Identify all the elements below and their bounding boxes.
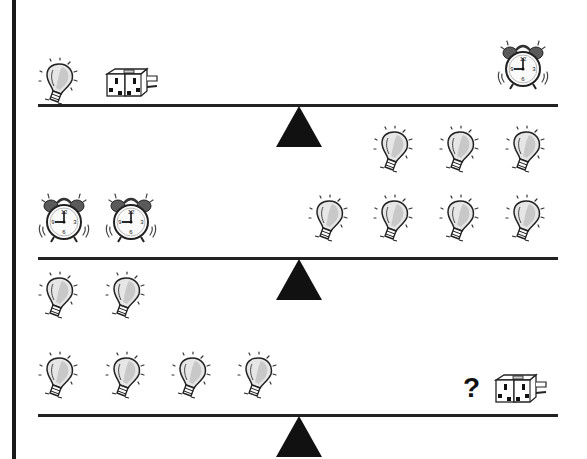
lightbulb-icon — [437, 124, 481, 174]
lightbulb-icon — [371, 193, 415, 243]
lightbulb-icon — [235, 350, 279, 400]
lightbulb-icon — [103, 350, 147, 400]
left-border — [12, 0, 16, 459]
lightbulb-icon — [503, 124, 547, 174]
alarm-clock-icon — [497, 40, 549, 92]
lightbulb-icon — [169, 350, 213, 400]
alarm-clock-icon — [38, 193, 90, 245]
scale-2-fulcrum-icon — [276, 259, 322, 300]
lightbulb-icon — [103, 270, 147, 320]
plug-adapter-icon — [492, 372, 548, 406]
alarm-clock-icon — [105, 193, 157, 245]
lightbulb-icon — [36, 270, 80, 320]
question-mark: ? — [463, 372, 480, 404]
lightbulb-icon — [36, 350, 80, 400]
plug-adapter-icon — [103, 66, 159, 100]
lightbulb-icon — [503, 193, 547, 243]
lightbulb-icon — [306, 193, 350, 243]
lightbulb-icon — [437, 193, 481, 243]
scale-1-fulcrum-icon — [276, 106, 322, 147]
lightbulb-icon — [36, 56, 80, 106]
scale-3-fulcrum-icon — [276, 416, 322, 457]
lightbulb-icon — [371, 124, 415, 174]
